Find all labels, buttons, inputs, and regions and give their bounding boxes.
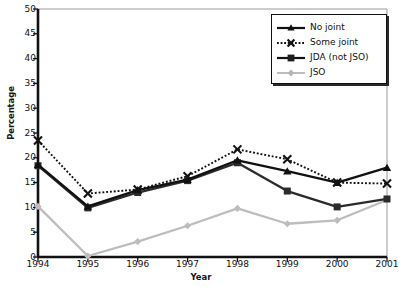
data-point-marker	[383, 164, 391, 171]
data-point-marker	[334, 203, 341, 210]
data-point-marker	[234, 205, 241, 212]
legend-item-no-joint: No joint	[276, 19, 381, 34]
legend-label-some-joint: Some joint	[306, 37, 358, 47]
legend-item-some-joint: Some joint	[276, 34, 381, 49]
series-some-joint	[34, 136, 391, 197]
data-point-marker	[384, 195, 391, 202]
data-point-marker	[134, 238, 141, 245]
series-no-joint	[34, 156, 391, 209]
line-chart: Percentage Year 05101520253035404550 199…	[0, 0, 402, 287]
data-point-marker	[334, 217, 341, 224]
data-point-marker	[84, 190, 92, 198]
legend-item-jda: JDA (not JSO)	[276, 49, 381, 64]
legend-item-jso: JSO	[276, 64, 381, 79]
legend-label-jda: JDA (not JSO)	[306, 52, 369, 62]
legend-label-jso: JSO	[306, 67, 325, 77]
data-point-marker	[284, 188, 291, 195]
legend-swatch-jso	[276, 65, 306, 79]
legend-label-no-joint: No joint	[306, 22, 345, 32]
data-point-marker	[184, 222, 191, 229]
chart-legend: No joint Some joint JDA (not JSO)	[271, 14, 387, 84]
legend-swatch-some-joint	[276, 35, 306, 49]
legend-swatch-jda	[276, 50, 306, 64]
data-point-marker	[284, 220, 291, 227]
legend-swatch-no-joint	[276, 20, 306, 34]
data-point-marker	[233, 145, 241, 153]
